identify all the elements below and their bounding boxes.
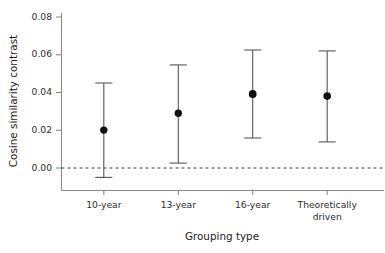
- x-tick-label-16-year: 16-year: [235, 199, 271, 210]
- errorbar-theoretically-driven: [319, 51, 336, 142]
- x-tick-label-theoretically: Theoretically: [297, 199, 358, 210]
- y-tick-label-0: 0.08: [32, 11, 53, 22]
- errorbar-10-year: [95, 83, 112, 177]
- y-axis-title: Cosine similarity contrast: [7, 35, 19, 167]
- y-tick-marks: [56, 17, 62, 168]
- x-tick-label-13-year: 13-year: [161, 199, 197, 210]
- x-tick-marks: [104, 191, 327, 196]
- y-tick-label-4: 0.00: [32, 162, 53, 173]
- x-tick-label-driven: driven: [313, 211, 342, 222]
- data-point-marker: [249, 90, 257, 98]
- x-axis-title: Grouping type: [185, 230, 259, 242]
- errorbar-13-year: [170, 65, 187, 163]
- y-tick-label-2: 0.04: [32, 86, 53, 97]
- y-tick-label-1: 0.06: [32, 48, 53, 59]
- plot-canvas: 0.08 0.06 0.04 0.02 0.00 Cosine similari…: [0, 0, 385, 253]
- x-tick-label-10-year: 10-year: [86, 199, 122, 210]
- chart-figure: 0.08 0.06 0.04 0.02 0.00 Cosine similari…: [0, 0, 385, 253]
- data-point-marker: [323, 92, 331, 100]
- data-point-marker: [175, 110, 182, 117]
- errorbar-16-year: [244, 50, 261, 138]
- y-tick-label-3: 0.02: [32, 124, 52, 135]
- data-point-marker: [100, 126, 107, 133]
